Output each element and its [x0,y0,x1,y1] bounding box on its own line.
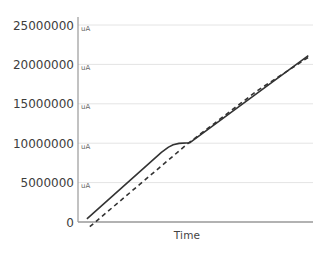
y-tick-label: 25000000 [13,19,74,33]
y-unit-label: uA [81,25,90,33]
y-tick-label: 15000000 [13,97,74,111]
reference-current-dashed-line [90,57,308,226]
current-vs-time-line-chart: 05000000uA10000000uA15000000uA20000000uA… [0,0,330,254]
y-tick-label: 0 [66,216,74,230]
x-axis-title: Time [165,229,209,241]
measured-current-solid-line [87,56,308,219]
y-unit-label: uA [81,103,90,111]
chart-canvas: 05000000uA10000000uA15000000uA20000000uA… [0,0,330,254]
y-unit-label: uA [81,64,90,72]
y-unit-label: uA [81,182,90,190]
y-tick-label: 20000000 [13,58,74,72]
y-tick-label: 10000000 [13,137,74,151]
y-unit-label: uA [81,143,90,151]
y-tick-label: 5000000 [21,176,74,190]
